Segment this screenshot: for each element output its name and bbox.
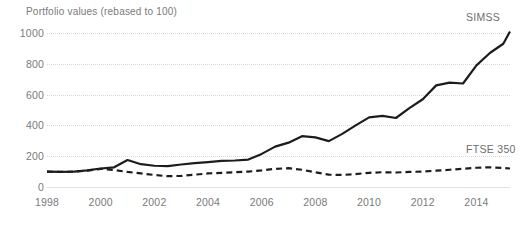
x-tick-label: 2006 [250,196,274,208]
series-line-simss [47,31,510,171]
chart-title: Portfolio values (rebased to 100) [26,6,177,17]
series-label-ftse: FTSE 350 [466,143,516,155]
x-tick-label: 2000 [89,196,113,208]
x-tick-label: 1998 [35,196,59,208]
x-tick-label: 2012 [411,196,435,208]
x-tick-label: 2002 [142,196,166,208]
x-tick-label: 2004 [196,196,220,208]
x-tick-label: 2014 [464,196,488,208]
series-line-ftse-350 [47,167,510,176]
y-tick-label: 800 [4,58,44,70]
y-tick-label: 400 [4,119,44,131]
y-tick-label: 1000 [4,27,44,39]
y-axis: 10008006004002000 [0,0,44,229]
plot-area [47,33,510,187]
y-tick-label: 0 [4,181,44,193]
x-tick-label: 2008 [303,196,327,208]
y-tick-label: 600 [4,89,44,101]
y-tick-label: 200 [4,150,44,162]
series-label-simss: SIMSS [466,11,500,23]
series-svg [47,33,510,187]
chart-container: Portfolio values (rebased to 100) 100080… [0,0,524,229]
gridline [47,187,510,188]
x-tick-label: 2010 [357,196,381,208]
